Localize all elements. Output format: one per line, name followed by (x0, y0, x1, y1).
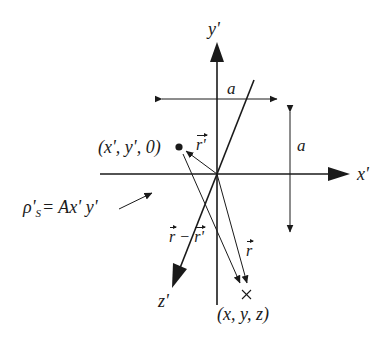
coordinate-diagram (0, 0, 391, 342)
minus-operator: − (180, 228, 189, 245)
z-axis-arrowhead-icon (172, 263, 187, 288)
x-axis-label: x' (357, 165, 369, 183)
r-minus-r-prime-label: r − r' (169, 229, 204, 245)
x-axis-arrowhead-icon (328, 167, 350, 181)
z-prime-axis (172, 80, 254, 288)
r-label: r (246, 243, 252, 259)
width-dimension-label: a (227, 80, 236, 97)
r-minus-b: r' (194, 229, 204, 245)
charge-density-equation: ρ'S= Ax' y' (23, 198, 98, 216)
z-axis-label: z' (158, 292, 169, 310)
x-prime-axis (100, 167, 350, 181)
y-axis-label: y' (208, 20, 220, 38)
rho-subscript: S (36, 207, 42, 219)
field-point-cross-icon (242, 290, 251, 299)
r-prime-text: r' (196, 137, 206, 153)
r-vector (217, 174, 247, 283)
rho-rhs: = Ax' y' (42, 197, 98, 217)
y-axis-arrowhead-icon (210, 42, 224, 62)
rho-symbol: ρ' (23, 197, 36, 217)
height-dimension-label: a (297, 137, 306, 154)
charge-density-pointer-arrow (119, 193, 152, 209)
r-minus-a: r (169, 229, 175, 245)
field-point-label: (x, y, z) (217, 305, 269, 323)
source-point-dot-icon (175, 143, 182, 150)
source-point-label: (x', y', 0) (98, 138, 161, 156)
r-prime-label: r' (196, 137, 206, 153)
r-text: r (246, 243, 252, 259)
